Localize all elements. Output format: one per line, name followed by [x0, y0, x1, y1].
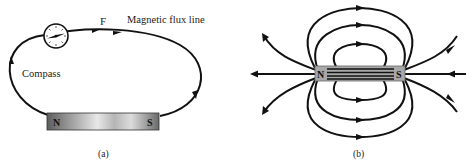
compass-icon — [44, 24, 68, 48]
arrow-icon — [447, 71, 455, 78]
bar-magnet-b: N S — [315, 66, 405, 81]
compass-label: Compass — [22, 68, 61, 79]
south-pole-label: S — [396, 69, 402, 80]
caption-a: (a) — [98, 149, 109, 160]
arrow-icon — [356, 5, 365, 11]
caption-b: (b) — [353, 149, 364, 160]
force-label: F — [100, 15, 106, 27]
north-pole-label: N — [53, 117, 61, 128]
magnet-diagram: F Magnetic flux line Compass N S (a) — [0, 0, 466, 164]
figure-a: F Magnetic flux line Compass N S (a) — [9, 14, 205, 160]
arrow-icon — [356, 97, 365, 103]
bar-magnet-a: N S — [47, 113, 159, 130]
arrow-icon — [113, 31, 122, 35]
arrow-icon — [356, 117, 365, 123]
north-pole-label: N — [317, 69, 325, 80]
arrow-icon — [356, 134, 365, 140]
arrow-icon — [356, 41, 365, 47]
field-line — [315, 25, 405, 70]
flux-line-label: Magnetic flux line — [127, 14, 205, 25]
arrow-icon — [356, 22, 365, 28]
arrow-icon — [250, 71, 258, 78]
south-pole-label: S — [147, 117, 153, 128]
